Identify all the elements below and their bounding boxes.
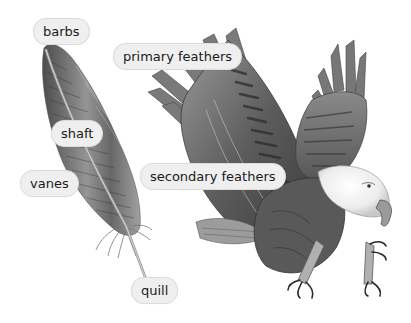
feather-and-eagle-diagram: barbs primary feathers shaft secondary f… [0, 0, 411, 323]
label-secondary-feathers: secondary feathers [140, 163, 286, 190]
label-barbs: barbs [33, 18, 90, 45]
label-shaft: shaft [51, 120, 103, 147]
label-primary-feathers: primary feathers [113, 43, 242, 70]
label-quill: quill [131, 277, 178, 304]
label-vanes: vanes [20, 170, 79, 197]
